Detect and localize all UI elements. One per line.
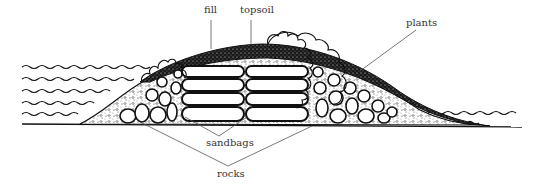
levee-cross-section-diagram bbox=[0, 0, 543, 188]
label-rocks: rocks bbox=[217, 169, 245, 179]
label-sandbags: sandbags bbox=[206, 138, 254, 148]
label-topsoil: topsoil bbox=[240, 5, 274, 15]
label-plants: plants bbox=[406, 18, 437, 28]
label-fill: fill bbox=[204, 5, 217, 15]
